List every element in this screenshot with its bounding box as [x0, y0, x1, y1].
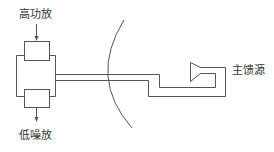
lna-label: 低噪放 [19, 130, 52, 142]
horn-feed-icon [191, 63, 201, 82]
waveguide-outer [56, 68, 226, 97]
hpa-label: 高功放 [19, 9, 52, 21]
hpa-box [25, 42, 50, 61]
main-feed-label: 主馈源 [232, 65, 265, 77]
lna-box [25, 90, 50, 108]
lna-arrowhead-icon [35, 117, 39, 122]
hpa-arrowhead-icon [35, 36, 39, 41]
